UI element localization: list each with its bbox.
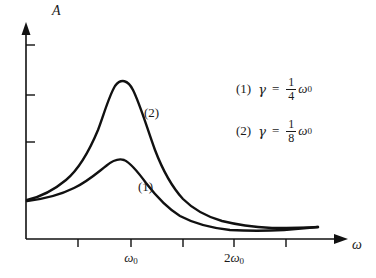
gamma-symbol: γ xyxy=(258,124,266,139)
legend-entry-2: (2) γ = 1 8 ω0 xyxy=(236,118,312,144)
omega-subscript: 0 xyxy=(240,256,245,266)
fraction-denominator: 8 xyxy=(286,131,296,145)
y-axis xyxy=(22,22,31,239)
omega-glyph: ω xyxy=(230,250,239,265)
equals-sign: = xyxy=(272,123,279,139)
omega-subscript: 0 xyxy=(307,126,312,136)
y-axis-title: A xyxy=(52,4,61,18)
x-tick-label-omega0: ω0 xyxy=(124,251,138,266)
fraction-numerator: 1 xyxy=(286,118,296,131)
x-axis-ticks xyxy=(78,239,286,247)
curve-label-1: (1) xyxy=(138,180,153,193)
x-tick-label-two-omega0: 2ω0 xyxy=(224,251,244,266)
legend-entry-1: (1) γ = 1 4 ω0 xyxy=(236,76,312,102)
omega-glyph: ω xyxy=(298,81,307,97)
fraction-one-eighth: 1 8 xyxy=(286,118,296,144)
resonance-curve-figure: A ω ω0 2ω0 (2) (1) (1) γ = 1 4 ω0 (2) γ … xyxy=(0,0,376,278)
omega-glyph: ω xyxy=(124,250,133,265)
gamma-symbol: γ xyxy=(258,82,266,97)
equals-sign: = xyxy=(272,81,279,97)
plot-canvas xyxy=(0,0,376,278)
fraction-denominator: 4 xyxy=(286,89,296,103)
omega-subscript: 0 xyxy=(133,256,138,266)
legend-key-1: (1) xyxy=(236,81,251,97)
omega-subscript: 0 xyxy=(307,84,312,94)
legend-key-2: (2) xyxy=(236,123,251,139)
y-axis-ticks xyxy=(26,45,35,142)
legend: (1) γ = 1 4 ω0 (2) γ = 1 8 ω0 xyxy=(236,76,312,144)
curve-label-2: (2) xyxy=(144,106,159,119)
fraction-numerator: 1 xyxy=(286,76,296,89)
curve-gamma-one-quarter xyxy=(27,159,318,230)
x-axis-title: ω xyxy=(352,238,362,252)
x-axis xyxy=(26,234,348,244)
omega-glyph: ω xyxy=(298,123,307,139)
fraction-one-quarter: 1 4 xyxy=(286,76,296,102)
